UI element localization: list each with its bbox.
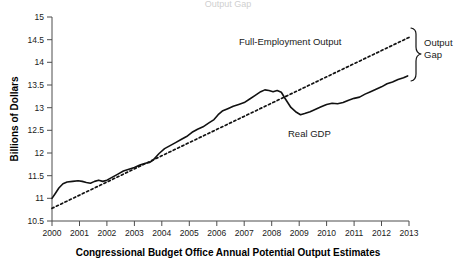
- x-tick-label-2004: 2004: [152, 228, 171, 238]
- y-tick-label-14-5: 14.5: [27, 35, 44, 45]
- annotation-full-employment-output: Full-Employment Output: [239, 36, 342, 47]
- chart-title: Output Gap: [205, 0, 252, 9]
- series-real-gdp: [52, 76, 408, 198]
- x-tick-label-2001: 2001: [70, 228, 89, 238]
- chart-figure: Output Gap 10.5 11 11.5 12 12.5 13 13.5 …: [0, 0, 456, 261]
- annotation-gap: Gap: [424, 49, 442, 60]
- y-tick-label-13-5: 13.5: [27, 80, 44, 90]
- x-tick-label-2007: 2007: [235, 228, 254, 238]
- x-tick-label-2006: 2006: [207, 228, 226, 238]
- x-tick-label-2010: 2010: [317, 228, 336, 238]
- x-ticks: 2000 2001 2002 2003 2004 2005 2006 2007 …: [43, 221, 419, 238]
- y-tick-label-10-5: 10.5: [27, 216, 44, 226]
- y-tick-label-12: 12: [35, 148, 45, 158]
- x-tick-label-2013: 2013: [400, 228, 419, 238]
- y-tick-label-12-5: 12.5: [27, 125, 44, 135]
- x-tick-label-2003: 2003: [125, 228, 144, 238]
- x-tick-label-2009: 2009: [290, 228, 309, 238]
- x-tick-label-2008: 2008: [262, 228, 281, 238]
- x-tick-label-2000: 2000: [43, 228, 62, 238]
- y-axis-title: Billions of Dollars: [9, 76, 20, 161]
- y-tick-label-13: 13: [35, 103, 45, 113]
- y-tick-label-14: 14: [35, 57, 45, 67]
- annotation-real-gdp: Real GDP: [288, 128, 331, 139]
- y-tick-label-11-5: 11.5: [28, 171, 44, 181]
- x-tick-label-2005: 2005: [180, 228, 199, 238]
- chart-canvas: Output Gap 10.5 11 11.5 12 12.5 13 13.5 …: [0, 0, 456, 261]
- y-tick-label-11: 11: [35, 193, 44, 203]
- y-tick-label-15: 15: [35, 12, 45, 22]
- y-ticks: 10.5 11 11.5 12 12.5 13 13.5 14 14.5 15: [27, 12, 52, 226]
- annotation-output: Output: [424, 37, 453, 48]
- series-full-employment-output: [52, 37, 409, 208]
- output-gap-brace: [411, 28, 421, 81]
- x-axis-title: Congressional Budget Office Annual Poten…: [76, 247, 381, 258]
- x-tick-label-2012: 2012: [372, 228, 391, 238]
- x-tick-label-2002: 2002: [97, 228, 116, 238]
- x-tick-label-2011: 2011: [345, 228, 364, 238]
